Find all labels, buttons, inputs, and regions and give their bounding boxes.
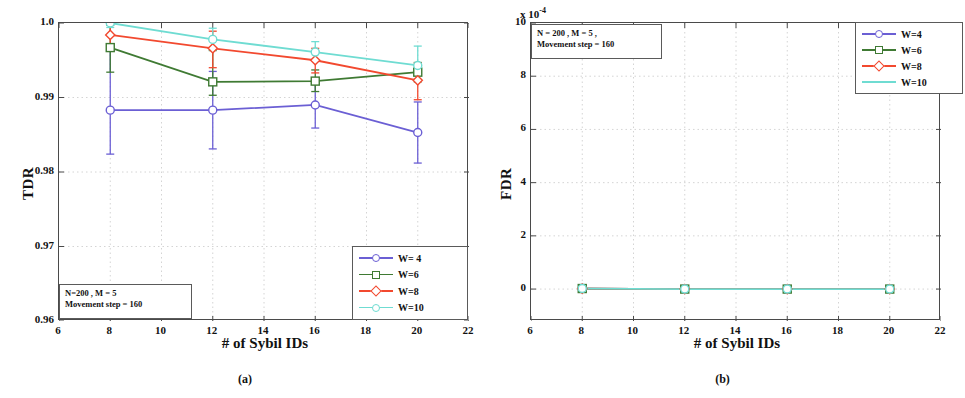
x-axis-label-sybil-ids: # of Sybil IDs xyxy=(140,335,390,352)
legend-label: W=6 xyxy=(398,269,419,280)
legend-item[interactable]: W=6 xyxy=(359,267,461,282)
y-tick-label: 2 xyxy=(484,228,526,240)
legend-label: W=10 xyxy=(901,77,927,88)
legend-color-swatch xyxy=(359,253,393,263)
legend-item[interactable]: W=8 xyxy=(862,59,956,74)
x-tick-label: 20 xyxy=(874,324,904,336)
legend-item[interactable]: W=8 xyxy=(359,284,461,299)
legend-item[interactable]: W=4 xyxy=(862,27,956,42)
legend-label: W=6 xyxy=(901,45,922,56)
y-tick-label: 0.98 xyxy=(12,164,54,176)
x-tick-label: 22 xyxy=(925,324,955,336)
caption-b: (b) xyxy=(480,372,965,387)
panel-a: TDR 0.960.970.980.991.0 6810121416182022… xyxy=(0,0,490,398)
panel-b: FDR x 10-4 0246810 6810121416182022 # of… xyxy=(480,0,965,398)
legend-color-swatch xyxy=(359,303,393,313)
exponent-power: -4 xyxy=(539,6,546,15)
legend-label: W=4 xyxy=(901,29,922,40)
y-tick-label: 4 xyxy=(484,175,526,187)
legend-color-swatch xyxy=(862,45,896,55)
x-tick-label: 6 xyxy=(515,324,545,336)
y-tick-label: 10 xyxy=(484,15,526,27)
legend-color-swatch xyxy=(359,270,393,280)
caption-a: (a) xyxy=(0,372,490,387)
y-tick-label: 0 xyxy=(484,281,526,293)
annotation-box-a: N=200 , M = 5 Movement step = 160 xyxy=(59,284,192,319)
legend-item[interactable]: W=10 xyxy=(359,300,461,315)
x-tick-label: 6 xyxy=(43,324,73,336)
legend-label: W=8 xyxy=(901,61,922,72)
annotation-line-2-b: Movement step = 160 xyxy=(537,39,656,50)
y-tick-label: 1.0 xyxy=(12,15,54,27)
annotation-box-b: N = 200 , M = 5 , Movement step = 160 xyxy=(531,24,662,59)
legend-color-swatch xyxy=(359,286,393,296)
annotation-line-1-b: N = 200 , M = 5 , xyxy=(537,28,656,39)
x-axis-label-sybil-ids-b: # of Sybil IDs xyxy=(612,335,862,352)
legend-fdr[interactable]: W=4W=6W=8W=10 xyxy=(855,22,963,94)
legend-item[interactable]: W= 4 xyxy=(359,251,461,266)
y-tick-label: 8 xyxy=(484,68,526,80)
legend-label: W=8 xyxy=(398,286,419,297)
x-tick-label: 8 xyxy=(94,324,124,336)
legend-item[interactable]: W=6 xyxy=(862,43,956,58)
y-tick-label: 6 xyxy=(484,121,526,133)
y-tick-label: 0.97 xyxy=(12,239,54,251)
x-tick-label: 20 xyxy=(402,324,432,336)
x-tick-label: 22 xyxy=(453,324,483,336)
figure-container: TDR 0.960.970.980.991.0 6810121416182022… xyxy=(0,0,965,398)
legend-color-swatch xyxy=(862,61,896,71)
annotation-line-2: Movement step = 160 xyxy=(65,299,186,310)
legend-label: W= 4 xyxy=(398,253,421,264)
legend-label: W=10 xyxy=(398,302,424,313)
y-tick-label: 0.99 xyxy=(12,90,54,102)
legend-color-swatch xyxy=(862,77,896,87)
legend-color-swatch xyxy=(862,29,896,39)
legend-tdr[interactable]: W= 4W=6W=8W=10 xyxy=(352,246,468,320)
legend-item[interactable]: W=10 xyxy=(862,75,956,90)
annotation-line-1: N=200 , M = 5 xyxy=(65,288,186,299)
x-tick-label: 8 xyxy=(566,324,596,336)
